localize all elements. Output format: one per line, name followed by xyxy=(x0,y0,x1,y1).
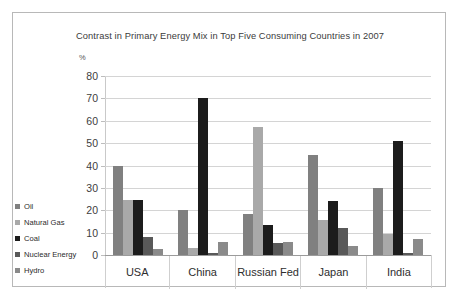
legend-item-oil[interactable]: Oil xyxy=(15,199,76,214)
legend-item-hydro[interactable]: Hydro xyxy=(15,263,76,278)
y-tick-label: 70 xyxy=(86,92,98,104)
bar[interactable] xyxy=(393,141,403,255)
bar[interactable] xyxy=(218,242,228,255)
bar[interactable] xyxy=(318,220,328,255)
legend-swatch-icon xyxy=(15,268,20,273)
y-tick-label: 0 xyxy=(92,249,98,261)
bar[interactable] xyxy=(133,200,143,255)
bar[interactable] xyxy=(113,166,123,256)
y-tick-label: 20 xyxy=(86,204,98,216)
bar[interactable] xyxy=(348,246,358,255)
y-tick-label: 50 xyxy=(86,137,98,149)
x-axis-category-russian-fed: Russian Fed xyxy=(236,256,301,289)
bar[interactable] xyxy=(383,234,393,255)
bar[interactable] xyxy=(273,243,283,255)
bar[interactable] xyxy=(178,210,188,255)
x-axis-category-japan: Japan xyxy=(301,256,366,289)
bar[interactable] xyxy=(198,98,208,255)
y-tick-label: 40 xyxy=(86,160,98,172)
x-axis-category-india: India xyxy=(367,256,431,289)
bar-group xyxy=(170,76,235,255)
x-axis-category-usa: USA xyxy=(105,256,170,289)
legend-item-natural-gas[interactable]: Natural Gas xyxy=(15,215,76,230)
bar[interactable] xyxy=(283,242,293,255)
bar[interactable] xyxy=(253,127,263,255)
x-axis-category-band: USAChinaRussian FedJapanIndia xyxy=(105,255,431,289)
bar[interactable] xyxy=(243,214,253,255)
legend-swatch-icon xyxy=(15,204,20,209)
bar-cluster xyxy=(243,76,293,255)
y-tick-label: 10 xyxy=(86,227,98,239)
bar-group xyxy=(105,76,170,255)
chart-frame: Contrast in Primary Energy Mix in Top Fi… xyxy=(12,12,446,287)
bar-cluster xyxy=(113,76,163,255)
y-tick-label: 80 xyxy=(86,70,98,82)
legend-swatch-icon xyxy=(15,220,20,225)
bar[interactable] xyxy=(328,201,338,255)
chart-legend: OilNatural GasCoalNuclear EnergyHydro xyxy=(15,199,76,279)
bar-group xyxy=(235,76,300,255)
bar-group xyxy=(301,76,366,255)
bar[interactable] xyxy=(188,248,198,255)
bar-group xyxy=(366,76,431,255)
bar[interactable] xyxy=(123,200,133,255)
y-tick-label: 60 xyxy=(86,115,98,127)
bar[interactable] xyxy=(338,228,348,255)
legend-label: Nuclear Energy xyxy=(24,250,76,259)
bar-cluster xyxy=(373,76,423,255)
bar-cluster xyxy=(178,76,228,255)
plot-area: 80706050403020100 xyxy=(105,76,431,255)
bar-groups xyxy=(105,76,431,255)
legend-label: Hydro xyxy=(24,266,44,275)
legend-swatch-icon xyxy=(15,252,20,257)
bar[interactable] xyxy=(413,239,423,255)
y-axis-unit-label: % xyxy=(79,53,86,62)
bar[interactable] xyxy=(308,155,318,255)
bar-cluster xyxy=(308,76,358,255)
y-tick-label: 30 xyxy=(86,182,98,194)
legend-item-nuclear-energy[interactable]: Nuclear Energy xyxy=(15,247,76,262)
x-axis-category-china: China xyxy=(170,256,235,289)
legend-swatch-icon xyxy=(15,236,20,241)
legend-label: Coal xyxy=(24,234,40,243)
legend-label: Oil xyxy=(24,202,33,211)
chart-title: Contrast in Primary Energy Mix in Top Fi… xyxy=(13,31,447,41)
x-band-right-edge xyxy=(431,255,432,288)
bar[interactable] xyxy=(143,237,153,255)
legend-item-coal[interactable]: Coal xyxy=(15,231,76,246)
bar[interactable] xyxy=(263,225,273,255)
bar[interactable] xyxy=(373,188,383,255)
legend-label: Natural Gas xyxy=(24,218,65,227)
